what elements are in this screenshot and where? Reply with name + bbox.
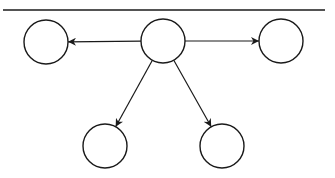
edge-center-to-bottom-right (174, 60, 211, 127)
node-left (24, 20, 68, 64)
node-layer (24, 19, 303, 168)
diagram-canvas (0, 0, 335, 178)
node-right (259, 19, 303, 63)
tree-diagram (0, 0, 335, 178)
node-bottom-left (83, 124, 127, 168)
edge-center-to-left (68, 41, 141, 42)
node-center (141, 19, 185, 63)
node-bottom-right (200, 124, 244, 168)
edge-center-to-bottom-left (116, 60, 153, 126)
